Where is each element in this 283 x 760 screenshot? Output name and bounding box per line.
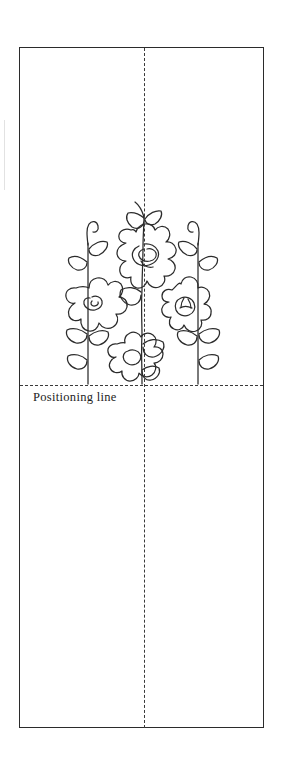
pattern-border xyxy=(19,47,264,728)
pattern-sheet: Positioning line xyxy=(0,0,283,760)
positioning-guide xyxy=(20,385,263,386)
center-fold-guide xyxy=(144,48,145,728)
positioning-line-label: Positioning line xyxy=(33,390,117,405)
page-edge-artifact xyxy=(4,120,5,190)
